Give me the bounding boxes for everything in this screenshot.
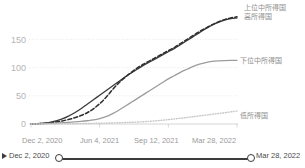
series-label-low-income: 低所得国	[240, 112, 268, 121]
series-paths	[31, 17, 237, 124]
series-line-3	[31, 111, 237, 124]
x-tick-3: Mar 28, 2022	[192, 136, 236, 145]
y-tick-50: 50	[0, 91, 26, 101]
axis-ticks	[31, 124, 237, 128]
timeline-handle-end[interactable]	[247, 154, 255, 162]
series-label-high-income: 高所得国	[244, 13, 272, 22]
plot-area: 150 100 50 0 Dec 2, 2020 Jun 4, 2021 Sep…	[0, 0, 305, 146]
x-tick-1: Jun 4, 2021	[80, 136, 119, 145]
y-tick-0: 0	[0, 119, 26, 129]
x-tick-0: Dec 2, 2020	[22, 136, 62, 145]
timeline-start-label: Dec 2, 2020	[9, 151, 49, 160]
series-label-upper-middle-income: 上位中所得国	[244, 4, 286, 13]
timeline-end-label: Mar 28, 2022	[256, 151, 300, 160]
play-icon[interactable]	[2, 153, 7, 159]
timeline-slider[interactable]: Dec 2, 2020 Mar 28, 2022	[0, 148, 305, 168]
line-chart-svg	[0, 0, 305, 146]
gridlines	[29, 39, 238, 124]
x-tick-2: Sep 12, 2021	[134, 136, 179, 145]
timeline-handle-start[interactable]	[55, 154, 63, 162]
y-tick-100: 100	[0, 63, 26, 73]
chart-container: 150 100 50 0 Dec 2, 2020 Jun 4, 2021 Sep…	[0, 0, 305, 168]
timeline-track[interactable]	[58, 158, 252, 160]
series-line-1	[31, 17, 237, 124]
y-tick-150: 150	[0, 35, 26, 45]
series-label-lower-middle-income: 下位中所得国	[240, 57, 282, 66]
